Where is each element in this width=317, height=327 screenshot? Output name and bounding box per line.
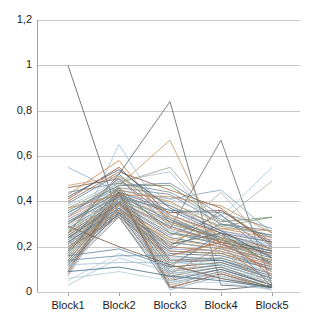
x-axis-tick-label-block5: Block5: [242, 300, 302, 311]
y-axis-tick-label: 0,4: [17, 195, 32, 206]
data-series-group: [68, 65, 272, 289]
chart-canvas: [0, 0, 317, 327]
parallel-coordinates-chart: 00,20,40,60,811,2 Block1Block2Block3Bloc…: [0, 0, 317, 327]
y-axis-tick-label: 0,6: [17, 150, 32, 161]
y-axis-tick-label: 0,8: [17, 105, 32, 116]
y-axis-tick-label: 1: [26, 59, 32, 70]
y-axis-tick-label: 0,2: [17, 241, 32, 252]
y-axis-tick-label: 0: [26, 286, 32, 297]
y-axis-tick-label: 1,2: [17, 14, 32, 25]
